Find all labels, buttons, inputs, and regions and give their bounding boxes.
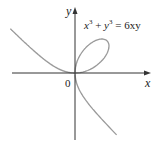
- x-axis-arrow-icon: [144, 71, 151, 76]
- equation-label: x3 + y3 = 6xy: [83, 18, 141, 31]
- x-axis: [12, 71, 151, 76]
- x-axis-label: x: [144, 76, 151, 90]
- y-axis-label: y: [65, 4, 72, 18]
- origin-label: 0: [65, 77, 71, 89]
- folium-diagram: y x 0 x3 + y3 = 6xy: [0, 0, 162, 148]
- y-axis-arrow-icon: [73, 7, 78, 14]
- folium-curve: [10, 29, 116, 135]
